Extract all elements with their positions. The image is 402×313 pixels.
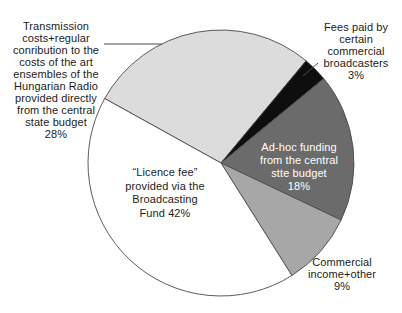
pie-chart-figure: Transmission costs+regular conribution t… xyxy=(0,0,402,313)
label-text-line: Hungarian Radio xyxy=(4,80,108,92)
label-percent-value: Fund 42% xyxy=(113,207,217,221)
label-percent-value: 18% xyxy=(247,180,351,193)
label-text-line: stte budget xyxy=(247,167,351,180)
label-text-line: Ad-hoc funding xyxy=(247,141,351,154)
label-commercial-income: Commercial income+other 9% xyxy=(295,256,389,292)
label-text-line: from the central xyxy=(247,154,351,167)
label-text-line: state budget xyxy=(4,116,108,128)
label-text-line: ensembles of the xyxy=(4,68,108,80)
label-percent-value: 28% xyxy=(4,128,108,140)
label-text-line: broadcasters xyxy=(308,57,402,69)
label-commercial-broadcaster-fees: Fees paid by certain commercial broadcas… xyxy=(308,21,402,81)
label-text-line: from the central xyxy=(4,104,108,116)
label-text-line: provided via the xyxy=(113,180,217,194)
label-text-line: certain xyxy=(308,33,402,45)
label-text-line: conribution to the xyxy=(4,44,108,56)
label-percent-value: 3% xyxy=(308,69,402,81)
label-text-line: Fees paid by xyxy=(308,21,402,33)
label-text-line: costs of the art xyxy=(4,56,108,68)
label-transmission-costs: Transmission costs+regular conribution t… xyxy=(4,20,108,140)
label-text-line: provided directly xyxy=(4,92,108,104)
label-text-line: Commercial xyxy=(295,256,389,268)
label-text-line: costs+regular xyxy=(4,32,108,44)
label-text-line: income+other xyxy=(295,268,389,280)
label-text-line: “Licence fee” xyxy=(113,166,217,180)
label-ad-hoc-funding: Ad-hoc funding from the central stte bud… xyxy=(247,141,351,193)
label-licence-fee: “Licence fee” provided via the Broadcast… xyxy=(113,166,217,220)
label-text-line: Transmission xyxy=(4,20,108,32)
label-text-line: commercial xyxy=(308,45,402,57)
label-percent-value: 9% xyxy=(295,280,389,292)
label-text-line: Broadcasting xyxy=(113,193,217,207)
